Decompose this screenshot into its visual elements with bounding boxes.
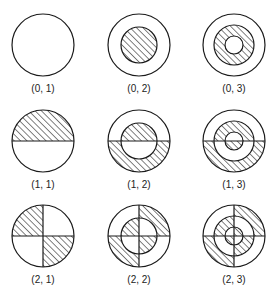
cell-label: (0, 1) [31,83,54,94]
cell-label: (2, 2) [127,274,150,285]
cell-label: (1, 3) [222,179,245,190]
pattern-cells: (0, 1)(0, 2)(0, 3)(1, 1)(1, 2)(1, 3)(2, … [12,14,265,285]
hatched-region [121,123,157,141]
cell-label: (0, 3) [222,83,245,94]
pattern-cell-0-3: (0, 3) [203,14,265,94]
outer-circle [203,14,265,76]
pattern-cell-2-2: (2, 2) [108,205,170,285]
hatched-region [108,141,170,172]
cell-label: (1, 2) [127,179,150,190]
pattern-cell-2-3: (2, 3) [203,205,265,285]
hatched-region [214,121,254,141]
hatched-region [12,110,74,141]
cell-label: (2, 1) [31,274,54,285]
pattern-cell-1-3: (1, 3) [203,110,265,190]
outer-circle [12,14,74,76]
pattern-cell-2-1: (2, 1) [12,205,74,285]
inner-circle [225,36,243,54]
cell-label: (1, 1) [31,179,54,190]
pattern-cell-0-1: (0, 1) [12,14,74,94]
cell-label: (0, 2) [127,83,150,94]
zernike-like-pattern-grid: (0, 1)(0, 2)(0, 3)(1, 1)(1, 2)(1, 3)(2, … [0,0,277,294]
pattern-cell-1-1: (1, 1) [12,110,74,190]
cell-label: (2, 3) [222,274,245,285]
pattern-cell-0-2: (0, 2) [108,14,170,94]
hatched-region [225,141,243,150]
pattern-cell-1-2: (1, 2) [108,110,170,190]
